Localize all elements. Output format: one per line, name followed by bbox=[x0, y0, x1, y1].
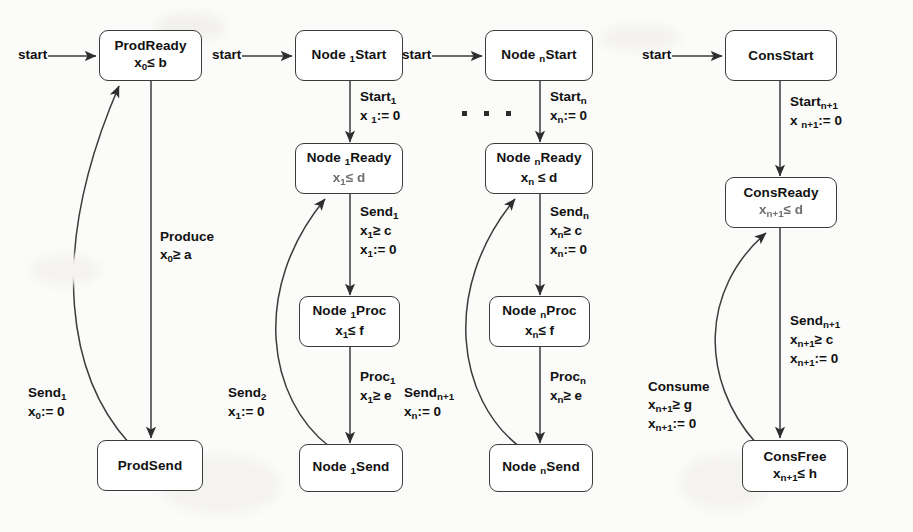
edge-guard: xn≥ e bbox=[550, 387, 586, 406]
edge-event: Produce bbox=[160, 228, 214, 246]
bound: b bbox=[158, 55, 166, 70]
bound: h bbox=[809, 466, 817, 481]
sub: 1 bbox=[393, 210, 398, 221]
rest: ≥ g bbox=[673, 397, 692, 412]
title-prefix: Node bbox=[502, 303, 536, 318]
edge-reset: x0:= 0 bbox=[28, 403, 66, 422]
rel: ≤ bbox=[798, 466, 805, 481]
state-noden-proc[interactable]: Node nProc xn≤ f bbox=[489, 296, 590, 347]
state-noden-ready[interactable]: Node nReady xn ≤ d bbox=[485, 143, 593, 194]
rest: ≥ c bbox=[373, 223, 392, 238]
sub: n+1 bbox=[798, 338, 815, 349]
sub: n+1 bbox=[798, 356, 815, 367]
state-cons-free[interactable]: ConsFree xn+1≤ h bbox=[742, 440, 848, 492]
state-node1-start[interactable]: Node 1Start bbox=[295, 30, 403, 81]
sub: n bbox=[581, 95, 587, 106]
state-title: Node nSend bbox=[502, 459, 579, 477]
title-prefix: Node bbox=[313, 303, 347, 318]
state-title: Node nProc bbox=[502, 303, 576, 321]
state-node1-proc[interactable]: Node 1Proc x1≤ f bbox=[299, 296, 400, 347]
edge-label-send-1: Send1 x1≥ c x1:= 0 bbox=[360, 203, 398, 259]
title-prefix: Node bbox=[307, 150, 341, 165]
bound: d bbox=[549, 170, 557, 185]
state-invariant: x1≤ d bbox=[333, 170, 365, 188]
title-suffix: Proc bbox=[356, 303, 386, 318]
event-name: Send bbox=[550, 204, 583, 219]
edge-event: Send1 bbox=[28, 384, 66, 403]
event-name: Send bbox=[28, 385, 61, 400]
sub: 1 bbox=[390, 375, 395, 386]
title-suffix: Ready bbox=[541, 150, 582, 165]
bound: f bbox=[550, 323, 555, 338]
rest: ≥ c bbox=[815, 332, 834, 347]
state-node1-ready[interactable]: Node 1Ready x1≤ d bbox=[295, 143, 403, 194]
title-prefix: Node bbox=[502, 459, 536, 474]
edge-label-start-n: Startn xn:= 0 bbox=[550, 88, 587, 126]
rest: := 0 bbox=[673, 416, 697, 431]
edge-label-start-1: Start1 x 1:= 0 bbox=[360, 88, 400, 126]
sub: n+1 bbox=[767, 208, 784, 219]
edge-label-send-n: Sendn xn≥ c xn:= 0 bbox=[550, 203, 589, 259]
state-cons-start[interactable]: ConsStart bbox=[725, 30, 837, 81]
state-invariant: xn ≤ d bbox=[521, 170, 558, 188]
edge-reset: x 1:= 0 bbox=[360, 107, 400, 126]
edge-event: Sendn+1 bbox=[404, 384, 454, 403]
title-suffix: Proc bbox=[546, 303, 576, 318]
start-label-node-1: start bbox=[212, 47, 241, 62]
edge-event: Startn+1 bbox=[790, 93, 842, 112]
edge-event: Procn bbox=[550, 368, 586, 387]
state-noden-start[interactable]: Node nStart bbox=[485, 30, 593, 81]
rel: ≤ bbox=[348, 323, 355, 338]
sub: n+1 bbox=[437, 391, 454, 402]
state-prod-ready[interactable]: ProdReady x0≤ b bbox=[99, 30, 202, 81]
edge-reset: xn:= 0 bbox=[550, 241, 589, 260]
ellipsis-dot bbox=[484, 111, 489, 116]
ellipsis-dot bbox=[462, 111, 467, 116]
sub: 1 bbox=[61, 391, 66, 402]
rest: := 0 bbox=[377, 108, 401, 123]
rel: ≤ bbox=[784, 202, 791, 217]
event-name: Send bbox=[790, 313, 823, 328]
edge-event: Sendn bbox=[550, 203, 589, 222]
state-invariant: x0≤ b bbox=[134, 55, 166, 73]
edge-label-send-2-back: Send2 x1:= 0 bbox=[228, 384, 266, 422]
title-suffix: Start bbox=[545, 47, 576, 62]
event-name: Send bbox=[228, 385, 261, 400]
state-invariant: xn+1≤ d bbox=[759, 202, 803, 220]
edge-label-send-n1: Sendn+1 xn+1≥ c xn+1:= 0 bbox=[790, 312, 840, 368]
edge-label-consume: Consume xn+1≥ g xn+1:= 0 bbox=[648, 378, 710, 434]
ellipsis-dots bbox=[462, 111, 511, 116]
edge-reset: xn:= 0 bbox=[404, 403, 454, 422]
state-noden-send[interactable]: Node nSend bbox=[489, 444, 593, 492]
state-node1-send[interactable]: Node 1Send bbox=[299, 444, 403, 492]
edge-event: Startn bbox=[550, 88, 587, 107]
sub: 1 bbox=[391, 95, 396, 106]
state-title: Node nReady bbox=[496, 150, 581, 168]
edge-event: Send1 bbox=[360, 203, 398, 222]
rest: := 0 bbox=[417, 404, 441, 419]
state-title: Node 1Proc bbox=[313, 303, 387, 321]
state-invariant: x1≤ f bbox=[335, 323, 364, 341]
start-label-producer: start bbox=[18, 47, 47, 62]
event-name: Start bbox=[550, 89, 581, 104]
diagram-canvas: start ProdReady x0≤ b ProdSend Produce x… bbox=[0, 0, 913, 532]
state-title: Node 1Send bbox=[313, 459, 390, 477]
state-invariant: xn≤ f bbox=[525, 323, 554, 341]
bound: d bbox=[795, 202, 803, 217]
start-label-node-n: start bbox=[402, 47, 431, 62]
state-cons-ready[interactable]: ConsReady xn+1≤ d bbox=[725, 177, 837, 228]
edge-event: Send2 bbox=[228, 384, 266, 403]
rest: := 0 bbox=[818, 113, 842, 128]
rel: ≤ bbox=[346, 170, 353, 185]
rest: := 0 bbox=[41, 404, 65, 419]
edge-label-send-n1-back: Sendn+1 xn:= 0 bbox=[404, 384, 454, 422]
edge-reset: x1:= 0 bbox=[360, 241, 398, 260]
rel: ≤ bbox=[538, 170, 545, 185]
rest: ≥ c bbox=[563, 223, 582, 238]
edge-reset: xn:= 0 bbox=[550, 107, 587, 126]
edge-event: Sendn+1 bbox=[790, 312, 840, 331]
state-invariant: xn+1≤ h bbox=[773, 466, 817, 484]
state-prod-send[interactable]: ProdSend bbox=[97, 440, 203, 491]
edge-guard: x1≥ e bbox=[360, 387, 395, 406]
sub: n+1 bbox=[821, 100, 838, 111]
